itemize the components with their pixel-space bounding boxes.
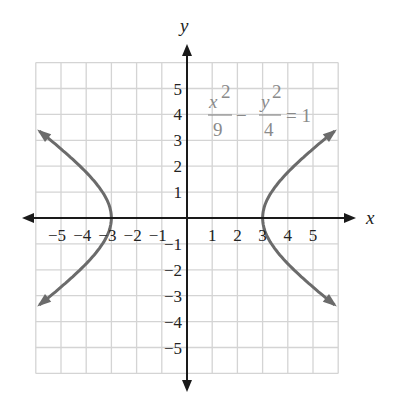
equation-label: x 2 9 − y 2 4 = 1	[208, 81, 311, 140]
x-tick-label: 1	[208, 226, 217, 245]
x-tick-labels: −5−4−3−2−112345	[48, 226, 317, 245]
x-axis-left-arrow-icon	[22, 213, 34, 223]
equation-minus: −	[236, 105, 247, 126]
x-axis-right-arrow-icon	[344, 213, 356, 223]
y-tick-label: −1	[164, 235, 182, 254]
y-axis-label: y	[178, 15, 189, 36]
y-tick-label: 1	[174, 183, 183, 202]
equation-numerator-1: x	[208, 91, 218, 112]
hyperbola-chart: x y −5−4−3−2−112345 54321−1−2−3−4−5 x 2 …	[0, 0, 396, 414]
equation-exponent-1: 2	[221, 81, 231, 102]
x-tick-label: 4	[284, 226, 293, 245]
x-tick-label: 5	[309, 226, 318, 245]
x-axis-label: x	[365, 207, 375, 228]
equation-exponent-2: 2	[272, 81, 282, 102]
x-tick-label: −3	[98, 226, 116, 245]
y-axis-top-arrow-icon	[182, 44, 192, 56]
x-tick-label: 2	[233, 226, 242, 245]
x-tick-label: −5	[48, 226, 66, 245]
x-tick-label: 3	[258, 226, 267, 245]
y-tick-label: 4	[174, 105, 183, 124]
x-tick-label: −4	[73, 226, 92, 245]
x-tick-label: −2	[124, 226, 142, 245]
y-tick-label: 2	[174, 157, 183, 176]
y-tick-label: 3	[174, 131, 183, 150]
y-axis-bottom-arrow-icon	[182, 380, 192, 392]
equation-numerator-2: y	[259, 91, 270, 112]
y-tick-label: −2	[164, 261, 182, 280]
y-tick-label: −5	[164, 339, 182, 358]
axes: x y	[22, 15, 375, 392]
equation-denominator-2: 4	[264, 119, 274, 140]
equation-denominator-1: 9	[213, 119, 223, 140]
y-tick-label: −3	[164, 287, 182, 306]
equation-rhs: = 1	[286, 105, 311, 126]
y-tick-label: 5	[174, 80, 183, 99]
y-tick-label: −4	[164, 313, 183, 332]
